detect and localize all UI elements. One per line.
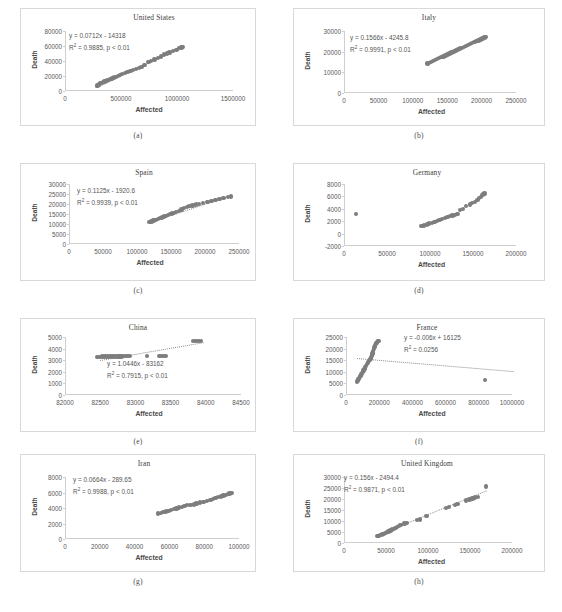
scatter-chart-china: China01000200030004000500082000825008300… [21,319,255,431]
y-axis-label: Death [31,496,38,518]
y-tick-mark [63,91,65,92]
regression-annotation: y = 0.1125x - 1920.6R2 = 0.9939, p < 0.0… [77,186,138,208]
y-tick-mark [342,184,344,185]
data-point [424,514,428,518]
x-axis-label: Affected [294,108,544,115]
regression-equation: y = -0.006x + 16125 [404,333,461,344]
y-tick-label: 5000 [48,334,62,341]
x-axis-label: Affected [294,410,544,417]
panel-cell-c: Spain05000100001500020000250003000005000… [0,155,276,310]
x-tick-label: 84500 [232,399,250,406]
x-axis-label: Affected [294,558,544,565]
data-point [229,194,233,198]
data-point [354,212,358,216]
y-tick-mark [63,395,65,396]
data-point [181,45,185,49]
y-tick-mark [63,383,65,384]
y-tick-mark [67,204,69,205]
regression-r2: R2 = 0.9991, p < 0.01 [350,44,411,56]
x-tick-label: 1000000 [500,399,525,406]
y-tick-mark [344,395,346,396]
y-tick-label: 20000 [325,345,343,352]
data-point [229,491,233,495]
x-tick-label: 82500 [91,399,109,406]
scatter-chart-united-states: United States020000400006000080000050000… [21,9,255,125]
y-tick-mark [63,337,65,338]
x-tick-label: 150000 [462,250,483,257]
x-axis-label: Affected [294,261,544,268]
figure-grid: United States020000400006000080000050000… [0,0,562,612]
y-tick-mark [342,543,344,544]
y-tick-label: 8000 [327,181,341,188]
x-tick-label: 0 [63,95,67,102]
x-tick-label: 83500 [162,399,180,406]
y-tick-label: 30000 [48,181,66,188]
y-tick-label: 10000 [325,368,343,375]
regression-r2: R2 = 0.9988, p < 0.01 [73,486,134,498]
y-tick-mark [342,52,344,53]
data-point [482,191,486,195]
plot-area [344,184,516,246]
y-axis-label: Death [304,498,311,520]
x-axis-label: Affected [21,106,255,113]
y-tick-label: 20000 [323,496,341,503]
y-tick-label: 60000 [44,43,62,50]
y-tick-label: 1000 [48,380,62,387]
x-tick-label: 0 [344,399,348,406]
x-tick-label: 83000 [127,399,145,406]
y-tick-mark [344,360,346,361]
data-point [483,378,487,382]
y-axis-label: Death [304,203,311,225]
x-tick-label: 0 [63,543,67,550]
scatter-chart-spain: Spain05000100001500020000250003000005000… [21,164,255,280]
scatter-chart-iran: Iran020004000600080000200004000060000800… [21,455,255,571]
y-tick-mark [342,521,344,522]
x-tick-label: 40000 [126,543,144,550]
x-tick-label: 50000 [370,97,388,104]
y-tick-label: 0 [58,536,62,543]
chart-panel-d: Germany-20000200040006000800005000010000… [293,163,545,281]
x-tick-label: 500000 [110,95,131,102]
x-tick-label: 1000000 [165,95,190,102]
y-tick-label: 10000 [48,221,66,228]
y-tick-mark [344,383,346,384]
y-tick-label: 2000 [48,520,62,527]
x-axis-label: Affected [21,259,255,266]
regression-annotation: y = -0.006x + 16125R2 = 0.0256 [404,333,461,355]
x-tick-label: 80000 [195,543,213,550]
y-tick-label: 6000 [48,489,62,496]
x-tick-label: 50000 [377,547,395,554]
y-tick-label: 4000 [327,205,341,212]
y-tick-mark [67,184,69,185]
x-tick-label: 400000 [402,399,423,406]
y-tick-label: 20000 [44,73,62,80]
data-point [484,484,488,488]
panel-cell-d: Germany-20000200040006000800005000010000… [276,155,562,310]
chart-panel-c: Spain05000100001500020000250003000005000… [20,163,256,281]
panel-cell-f: France0500010000150002000025000020000040… [276,310,562,446]
chart-panel-h: United Kingdom05000100001500020000250003… [293,454,545,572]
y-tick-label: 6000 [327,193,341,200]
chart-title: Iran [21,459,255,468]
x-tick-label: 200000 [471,97,492,104]
y-tick-mark [342,72,344,73]
x-tick-label: 0 [342,547,346,554]
chart-panel-e: China01000200030004000500082000825008300… [20,318,256,432]
panel-cell-h: United Kingdom05000100001500020000250003… [276,446,562,612]
y-tick-label: 15000 [323,507,341,514]
y-tick-label: 30000 [323,474,341,481]
y-tick-mark [342,499,344,500]
panel-cell-a: United States020000400006000080000050000… [0,0,276,155]
x-tick-label: 200000 [369,399,390,406]
y-tick-mark [63,372,65,373]
y-tick-mark [63,46,65,47]
x-tick-label: 0 [67,248,71,255]
data-point [405,521,409,525]
y-tick-label: 2000 [48,368,62,375]
x-tick-label: 84000 [197,399,215,406]
figure-sheet: United States020000400006000080000050000… [0,0,562,612]
regression-equation: y = 0.1566x - 4245.8 [350,33,411,44]
chart-title: Italy [294,13,544,22]
data-point [376,339,380,343]
caption-f: (f) [415,437,423,446]
